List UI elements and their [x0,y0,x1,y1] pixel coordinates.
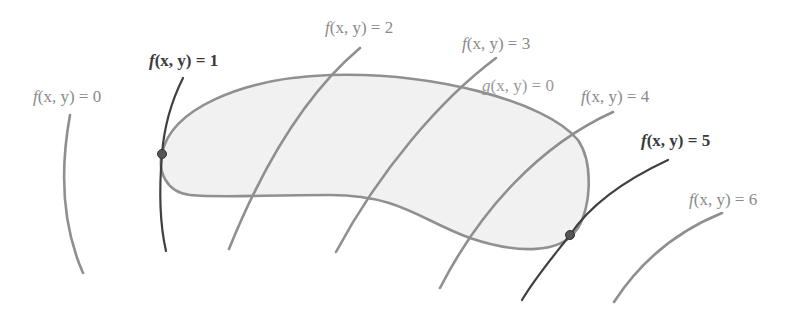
label-f3: f(x, y) = 3 [462,34,530,53]
label-g: g(x, y) = 0 [482,76,554,95]
level-curve-diagram: f(x, y) = 0 f(x, y) = 1 f(x, y) = 2 f(x,… [0,0,799,327]
label-f5: f(x, y) = 5 [641,131,710,150]
label-f4: f(x, y) = 4 [581,87,650,106]
tangent-point-max [566,231,575,240]
label-f6: f(x, y) = 6 [689,190,757,209]
tangent-point-min [158,150,167,159]
label-f2: f(x, y) = 2 [325,18,393,37]
label-f1: f(x, y) = 1 [149,51,218,70]
label-f0: f(x, y) = 0 [33,87,101,106]
constraint-region-g [161,75,589,249]
level-curve-f6 [614,213,722,302]
level-curve-f0 [64,115,83,273]
